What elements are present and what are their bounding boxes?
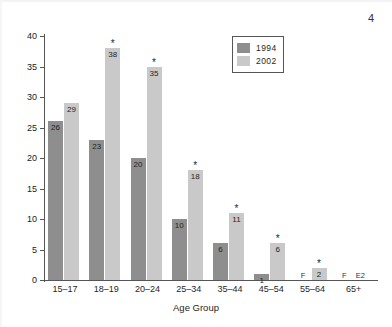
bar-value-label: 18 <box>188 172 203 181</box>
bar-suppressed-flag: F <box>296 271 311 280</box>
bar-suppressed-flag: F <box>337 271 352 280</box>
y-tick-label-30: 30 <box>18 92 37 102</box>
y-tick-label-35: 35 <box>18 62 37 72</box>
y-tick-label-20: 20 <box>18 153 37 163</box>
bar-group: 2629 <box>45 36 85 280</box>
y-tick-label-25: 25 <box>18 123 37 133</box>
bar-2002-45–54: 6* <box>270 243 285 280</box>
bar-1994-45–54: 1 <box>254 274 269 280</box>
bar-1994-35–44: 6 <box>213 243 228 280</box>
significance-asterisk: * <box>188 161 203 170</box>
bar-2002-25–34: 18* <box>188 170 203 280</box>
bar-group: 2035* <box>128 36 168 280</box>
y-tick-label-40: 40 <box>18 31 37 41</box>
bar-suppressed-flag: E2 <box>353 271 368 280</box>
bar-value-label: 6 <box>270 245 285 254</box>
significance-asterisk: * <box>270 234 285 243</box>
bar-2002-35–44: 11* <box>229 213 244 280</box>
bar-1994-15–17: 26 <box>48 121 63 280</box>
bar-value-label: 6 <box>213 245 228 254</box>
bar-2002-15–17: 29 <box>64 103 79 280</box>
bar-value-label: 11 <box>229 215 244 224</box>
bar-chart: 0510152025303540 26292338*2035*1018*611*… <box>0 0 392 327</box>
bar-value-label: 20 <box>131 160 146 169</box>
bar-value-label: 35 <box>147 69 162 78</box>
bar-1994-20–24: 20 <box>131 158 146 280</box>
bar-group: 1018* <box>169 36 209 280</box>
legend-label-1994: 1994 <box>256 43 277 53</box>
bar-2002-55–64: 2* <box>312 268 327 280</box>
bar-value-label: 2 <box>312 270 327 279</box>
bar-group: 2338* <box>86 36 126 280</box>
legend-label-2002: 2002 <box>256 56 277 66</box>
x-axis-line <box>40 280 378 281</box>
bar-value-label: 10 <box>172 221 187 230</box>
significance-asterisk: * <box>105 39 120 48</box>
bar-1994-18–19: 23 <box>89 140 104 280</box>
y-tick-label-5: 5 <box>18 245 37 255</box>
y-tick-label-10: 10 <box>18 214 37 224</box>
y-tick-label-15: 15 <box>18 184 37 194</box>
bar-value-label: 38 <box>105 50 120 59</box>
bar-value-label: 29 <box>64 105 79 114</box>
legend-item-1994: 1994 <box>237 42 277 54</box>
bar-value-label: 23 <box>89 142 104 151</box>
chart-legend: 1994 2002 <box>232 36 284 73</box>
y-tick-0 <box>40 280 45 281</box>
bar-group: F2* <box>293 36 333 280</box>
bar-value-label: 26 <box>48 123 63 132</box>
bar-group: FE2 <box>334 36 374 280</box>
bar-1994-25–34: 10 <box>172 219 187 280</box>
legend-swatch-1994 <box>237 43 250 53</box>
legend-item-2002: 2002 <box>237 55 277 67</box>
x-tick-label: 65+ <box>324 284 384 294</box>
bar-2002-20–24: 35* <box>147 67 162 281</box>
significance-asterisk: * <box>229 204 244 213</box>
significance-asterisk: * <box>147 58 162 67</box>
legend-swatch-2002 <box>237 56 250 66</box>
bar-2002-18–19: 38* <box>105 48 120 280</box>
significance-asterisk: * <box>312 259 327 268</box>
x-axis-title: Age Group <box>0 302 392 313</box>
